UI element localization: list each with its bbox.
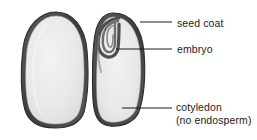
label-seed-coat-text: seed coat	[177, 17, 223, 29]
figure-canvas: seed coat embryo cotyledon (no endosperm…	[0, 0, 257, 140]
label-seed-coat: seed coat	[177, 17, 223, 30]
label-embryo: embryo	[177, 43, 213, 56]
cotyledon-left-body	[26, 16, 84, 124]
label-cotyledon-subtext: (no endosperm)	[176, 114, 252, 127]
right-seed-half	[92, 13, 144, 126]
label-cotyledon: cotyledon (no endosperm)	[176, 101, 252, 126]
label-cotyledon-text: cotyledon	[176, 101, 222, 113]
label-embryo-text: embryo	[177, 43, 213, 55]
left-seed-half	[21, 12, 88, 128]
